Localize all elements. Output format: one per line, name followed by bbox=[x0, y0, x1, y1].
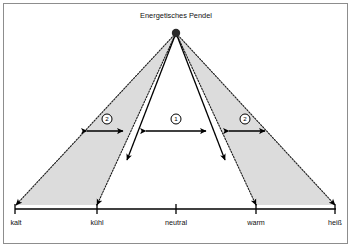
badge-label-center: 1 bbox=[174, 115, 178, 122]
energetic-pendulum-figure: Energetisches Pendel 212 kaltkühlneutral… bbox=[0, 0, 351, 247]
badge-label-right: 2 bbox=[243, 115, 247, 122]
figure-title: Energetisches Pendel bbox=[140, 11, 212, 20]
axis-label-kühl: kühl bbox=[90, 218, 104, 227]
axis-label-kalt: kalt bbox=[10, 218, 21, 227]
pendulum-diagram-canvas: Energetisches Pendel 212 kaltkühlneutral… bbox=[0, 0, 351, 247]
badge-label-left: 2 bbox=[105, 115, 109, 122]
axis-label-heiß: heiß bbox=[328, 218, 343, 227]
pendulum-pivot-dot bbox=[172, 29, 180, 37]
axis-label-neutral: neutral bbox=[165, 218, 187, 227]
axis-label-warm: warm bbox=[246, 218, 265, 227]
